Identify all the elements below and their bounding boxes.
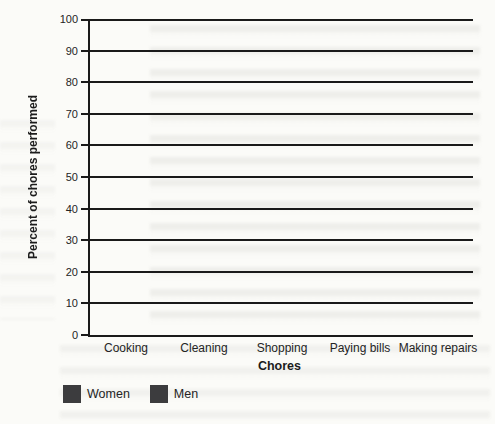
y-tick-90: [81, 50, 88, 52]
y-tick-label-90: 90: [0, 44, 78, 58]
y-tick-label-80: 80: [0, 75, 78, 89]
y-tick-label-70: 70: [0, 107, 78, 121]
gridline-60: [90, 144, 473, 146]
y-tick-70: [81, 113, 88, 115]
y-tick-label-0: 0: [0, 328, 78, 342]
women-series-swatch: [63, 385, 81, 403]
y-tick-100: [81, 19, 88, 21]
plot-area: [88, 19, 473, 337]
y-tick-0: [81, 334, 88, 336]
category-label-making-repairs: Making repairs: [405, 341, 471, 355]
y-tick-label-50: 50: [0, 170, 78, 184]
legend: Women Men: [63, 385, 198, 403]
legend-item-men: Men: [150, 385, 198, 403]
y-tick-label-30: 30: [0, 233, 78, 247]
gridline-20: [90, 271, 473, 273]
y-tick-label-60: 60: [0, 138, 78, 152]
y-tick-label-10: 10: [0, 296, 78, 310]
y-tick-label-40: 40: [0, 202, 78, 216]
category-label-shopping: Shopping: [249, 341, 315, 355]
scan-bleedthrough-artifact: [60, 345, 490, 420]
category-label-cooking: Cooking: [93, 341, 159, 355]
gridline-40: [90, 208, 473, 210]
gridline-100: [90, 19, 473, 21]
legend-item-women: Women: [63, 385, 130, 403]
y-tick-80: [81, 81, 88, 83]
legend-label-men: Men: [174, 387, 198, 401]
men-series-swatch: [150, 385, 168, 403]
category-label-cleaning: Cleaning: [171, 341, 237, 355]
y-tick-10: [81, 302, 88, 304]
y-axis-tick-labels: 1009080706050403020100: [0, 19, 78, 335]
gridline-90: [90, 50, 473, 52]
y-tick-50: [81, 176, 88, 178]
gridline-80: [90, 81, 473, 83]
y-tick-label-20: 20: [0, 265, 78, 279]
gridline-70: [90, 113, 473, 115]
y-tick-label-100: 100: [0, 12, 78, 26]
x-axis-title: Chores: [88, 359, 471, 373]
category-label-paying-bills: Paying bills: [327, 341, 393, 355]
gridline-10: [90, 302, 473, 304]
figure-bar-chart: Percent of chores performed 100908070605…: [0, 0, 495, 424]
y-tick-20: [81, 271, 88, 273]
y-tick-40: [81, 208, 88, 210]
y-tick-30: [81, 239, 88, 241]
y-tick-60: [81, 144, 88, 146]
legend-label-women: Women: [87, 387, 130, 401]
gridline-30: [90, 239, 473, 241]
x-axis-category-labels: CookingCleaningShoppingPaying billsMakin…: [88, 341, 471, 355]
gridline-50: [90, 176, 473, 178]
